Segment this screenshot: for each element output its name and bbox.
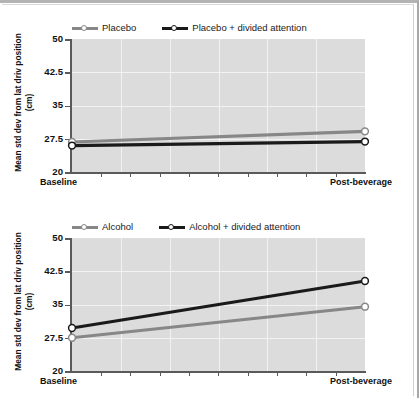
chart-panel-alcohol: Alcohol Alcohol + divided attention Mean… xyxy=(0,199,419,398)
y-tick-label: 20 xyxy=(35,365,63,376)
y-tick-label: 42.5 xyxy=(35,66,63,77)
series-line-placebo-divided-attention xyxy=(72,142,365,146)
y-tick-label: 35 xyxy=(35,298,63,309)
data-point-marker xyxy=(69,142,76,149)
y-tick-label: 50 xyxy=(35,232,63,243)
x-tick-label-post-beverage: Post-beverage xyxy=(330,177,392,187)
legend-line-marker-icon xyxy=(72,23,98,33)
data-point-marker xyxy=(69,334,76,341)
data-point-marker xyxy=(362,138,369,145)
legend-placebo: Placebo Placebo + divided attention xyxy=(72,20,372,36)
x-tick-label-baseline: Baseline xyxy=(40,177,77,187)
y-tick-label: 27.5 xyxy=(35,332,63,343)
y-axis-title: Mean std dev from lat driv position (cm) xyxy=(13,28,34,178)
x-tick-label-baseline: Baseline xyxy=(40,376,77,386)
legend-line-marker-icon xyxy=(159,222,185,232)
legend-label: Placebo + divided attention xyxy=(192,23,306,33)
figure-page: Placebo Placebo + divided attention Mean… xyxy=(0,0,419,398)
series-line-placebo xyxy=(72,131,365,142)
data-point-marker xyxy=(362,278,369,285)
data-point-marker xyxy=(362,303,369,310)
legend-line-marker-icon xyxy=(72,222,98,232)
data-point-marker xyxy=(362,128,369,135)
y-tick-label: 50 xyxy=(35,33,63,44)
x-tick-label-post-beverage: Post-beverage xyxy=(330,376,392,386)
y-tick-label: 35 xyxy=(35,99,63,110)
y-tick-label: 20 xyxy=(35,166,63,177)
legend-label: Placebo xyxy=(102,23,136,33)
legend-item-placebo[interactable]: Placebo xyxy=(72,23,136,33)
legend-label: Alcohol xyxy=(102,222,133,232)
legend-alcohol: Alcohol Alcohol + divided attention xyxy=(72,219,372,235)
series-layer-alcohol xyxy=(72,238,365,371)
series-layer-placebo xyxy=(72,39,365,172)
y-tick-label: 42.5 xyxy=(35,265,63,276)
legend-item-alcohol[interactable]: Alcohol xyxy=(72,222,133,232)
y-tick-label: 27.5 xyxy=(35,133,63,144)
data-point-marker xyxy=(69,325,76,332)
legend-label: Alcohol + divided attention xyxy=(189,222,300,232)
legend-line-marker-icon xyxy=(162,23,188,33)
legend-item-alcohol-divided-attention[interactable]: Alcohol + divided attention xyxy=(159,222,300,232)
y-axis-title: Mean std dev from lat driv position (cm) xyxy=(13,227,34,377)
chart-panel-placebo: Placebo Placebo + divided attention Mean… xyxy=(0,0,419,199)
legend-item-placebo-divided-attention[interactable]: Placebo + divided attention xyxy=(162,23,306,33)
